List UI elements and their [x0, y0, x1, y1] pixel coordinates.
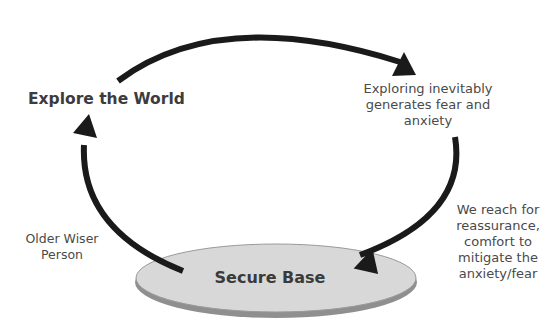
reassurance-label: We reach for reassurance, comfort to mit…	[448, 202, 548, 282]
arrow-fear-to-base-icon	[353, 137, 456, 274]
explore-world-label: Explore the World	[28, 91, 185, 107]
arrow-explore-to-fear-icon	[118, 38, 416, 81]
fear-anxiety-label: Exploring inevitably generates fear and …	[363, 81, 493, 129]
secure-base-label: Secure Base	[200, 270, 340, 286]
older-wiser-person-label: Older Wiser Person	[22, 231, 102, 263]
